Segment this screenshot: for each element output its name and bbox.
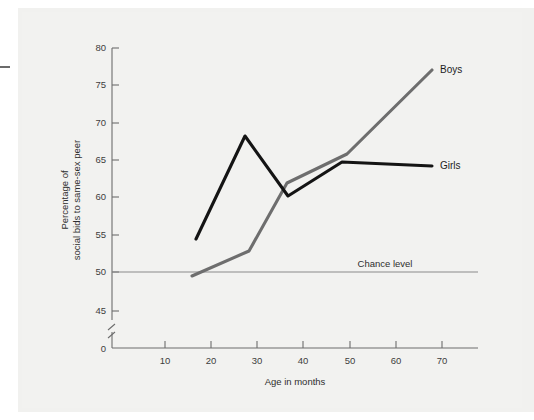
x-tick-labels: 10 20 30 40 50 60 70 bbox=[160, 355, 448, 366]
x-tick-label-50: 50 bbox=[345, 355, 356, 366]
y-tick-label-0: 0 bbox=[101, 343, 106, 354]
chance-level-label: Chance level bbox=[358, 258, 413, 269]
x-tick-label-40: 40 bbox=[298, 355, 309, 366]
series-label-girls: Girls bbox=[440, 160, 461, 171]
y-tick-label-45: 45 bbox=[95, 305, 106, 316]
y-tick-label-65: 65 bbox=[95, 154, 106, 165]
x-axis-title: Age in months bbox=[265, 376, 326, 387]
figure-page: 80 75 70 65 60 55 50 45 0 bbox=[0, 0, 534, 420]
line-chart: 80 75 70 65 60 55 50 45 0 bbox=[0, 0, 534, 420]
series-label-boys: Boys bbox=[440, 64, 462, 75]
y-tick-label-75: 75 bbox=[95, 79, 106, 90]
y-tick-label-55: 55 bbox=[95, 229, 106, 240]
y-axis-title-line1: Percentage of bbox=[59, 170, 70, 230]
x-tick-marks bbox=[165, 341, 442, 348]
y-axis bbox=[108, 48, 115, 348]
x-tick-label-70: 70 bbox=[437, 355, 448, 366]
x-tick-label-10: 10 bbox=[160, 355, 171, 366]
series-line-girls bbox=[196, 136, 432, 239]
y-tick-labels: 80 75 70 65 60 55 50 45 0 bbox=[95, 42, 106, 354]
x-tick-label-30: 30 bbox=[252, 355, 263, 366]
y-axis-title-line2: social bids to same-sex peer bbox=[71, 140, 82, 260]
x-tick-label-60: 60 bbox=[391, 355, 402, 366]
y-tick-label-60: 60 bbox=[95, 191, 106, 202]
y-tick-label-50: 50 bbox=[95, 266, 106, 277]
chart-svg: 80 75 70 65 60 55 50 45 0 bbox=[0, 0, 534, 420]
y-tick-label-80: 80 bbox=[95, 42, 106, 53]
x-tick-label-20: 20 bbox=[206, 355, 217, 366]
y-tick-label-70: 70 bbox=[95, 117, 106, 128]
